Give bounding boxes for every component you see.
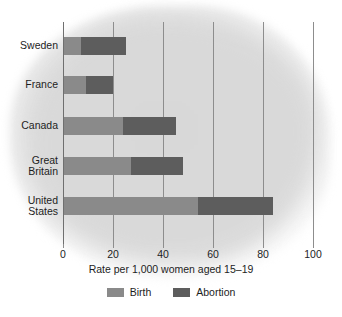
category-label-line: Canada [2, 120, 58, 132]
x-axis-tick-label: 0 [60, 248, 66, 260]
bar-segment-abortion [81, 37, 126, 55]
bar-segment-birth [63, 37, 81, 55]
category-label-line: Britain [2, 166, 58, 178]
x-axis-tick-label: 80 [257, 248, 269, 260]
bar-chart: SwedenFranceCanadaGreatBritainUnitedStat… [0, 0, 342, 317]
gridline [313, 22, 314, 243]
bar-segment-birth [63, 157, 131, 175]
bar-row [63, 117, 176, 135]
legend-swatch [173, 288, 190, 297]
category-label: UnitedStates [2, 195, 58, 218]
bar-segment-abortion [86, 76, 114, 94]
bar-segment-birth [63, 117, 123, 135]
category-label: Canada [2, 120, 58, 132]
bar-row [63, 157, 183, 175]
legend-item[interactable]: Birth [107, 286, 152, 298]
category-label: France [2, 79, 58, 91]
bar-segment-abortion [131, 157, 184, 175]
bar-row [63, 197, 273, 215]
x-axis-tick-label: 40 [157, 248, 169, 260]
category-label: GreatBritain [2, 155, 58, 178]
legend-label: Abortion [196, 286, 235, 298]
bar-segment-birth [63, 76, 86, 94]
x-axis-tick-label: 100 [304, 248, 322, 260]
x-axis-tick-label: 20 [107, 248, 119, 260]
legend: BirthAbortion [0, 286, 342, 298]
x-axis-tick-label: 60 [207, 248, 219, 260]
bar-row [63, 37, 126, 55]
bar-segment-abortion [198, 197, 273, 215]
bar-row [63, 76, 113, 94]
category-label-line: States [2, 206, 58, 218]
plot-area [63, 22, 313, 243]
category-label-line: France [2, 79, 58, 91]
y-axis-line [63, 22, 64, 244]
category-label-line: Sweden [2, 40, 58, 52]
legend-swatch [107, 288, 124, 297]
category-label: Sweden [2, 40, 58, 52]
bar-segment-abortion [123, 117, 176, 135]
x-axis-title: Rate per 1,000 women aged 15–19 [0, 263, 342, 275]
legend-item[interactable]: Abortion [173, 286, 235, 298]
bar-segment-birth [63, 197, 198, 215]
legend-label: Birth [130, 286, 152, 298]
